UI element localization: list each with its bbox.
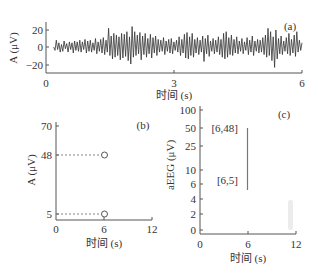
panel-b-ytick-5: 5 xyxy=(47,208,53,220)
panel-a-xtick-3: 3 xyxy=(171,77,177,89)
panel-b-xlabel: 时间 (s) xyxy=(86,237,123,250)
panel-c: 100 50 25 10 6 4 2 0 0 6 12 时间 (s) aEEG … xyxy=(164,104,302,265)
panel-c-label: (c) xyxy=(278,108,291,121)
panel-b-ytick-48: 48 xyxy=(41,149,53,161)
panel-a-ytick-20: 20 xyxy=(32,24,44,36)
panel-c-ytick-100: 100 xyxy=(180,104,197,116)
panel-c-ytick-0: 0 xyxy=(191,224,197,236)
panel-c-ylabel: aEEG (μV) xyxy=(164,140,177,191)
annotation-upper: [6,48] xyxy=(211,122,238,134)
panel-b-ylabel: A (μV) xyxy=(25,154,38,186)
eeg-waveform xyxy=(54,27,302,68)
panel-c-ytick-10: 10 xyxy=(185,164,197,176)
panel-c-ytick-4: 4 xyxy=(191,193,197,205)
scan-smudge xyxy=(288,200,293,230)
panel-b-xtick-12: 12 xyxy=(147,223,158,235)
panel-c-ytick-2: 2 xyxy=(191,208,197,220)
panel-a-xlabel: 时间 (s) xyxy=(156,89,193,102)
panel-b-ytick-70: 70 xyxy=(41,120,53,132)
figure: 20 0 −20 0 3 6 时间 (s) A (μV) (a) 70 48 5… xyxy=(0,0,318,274)
annotation-lower: [6,5] xyxy=(217,174,238,186)
point-upper-margin xyxy=(102,152,108,158)
panel-c-xlabel: 时间 (s) xyxy=(230,252,267,265)
panel-c-xtick-12: 12 xyxy=(291,238,302,250)
panel-a-ytick-0: 0 xyxy=(38,41,44,53)
panel-a-xtick-0: 0 xyxy=(43,77,49,89)
panel-c-ytick-50: 50 xyxy=(185,122,197,134)
panel-b-label: (b) xyxy=(137,119,150,132)
panel-c-ytick-6: 6 xyxy=(191,178,197,190)
panel-c-xtick-6: 6 xyxy=(245,238,251,250)
panel-a-ylabel: A (μV) xyxy=(7,32,20,64)
panel-a: 20 0 −20 0 3 6 时间 (s) A (μV) (a) xyxy=(7,20,305,102)
panel-b-xtick-0: 0 xyxy=(53,223,59,235)
panel-b-xtick-6: 6 xyxy=(101,223,107,235)
panel-c-ytick-25: 25 xyxy=(185,140,197,152)
point-lower-margin xyxy=(102,211,108,217)
panel-a-label: (a) xyxy=(284,20,297,33)
panel-c-xtick-0: 0 xyxy=(197,238,203,250)
chart-canvas: 20 0 −20 0 3 6 时间 (s) A (μV) (a) 70 48 5… xyxy=(0,0,318,274)
panel-a-ytick-neg20: −20 xyxy=(26,59,44,71)
panel-a-xtick-6: 6 xyxy=(299,77,305,89)
panel-b: 70 48 5 0 6 12 时间 (s) A (μV) (b) xyxy=(25,119,158,250)
